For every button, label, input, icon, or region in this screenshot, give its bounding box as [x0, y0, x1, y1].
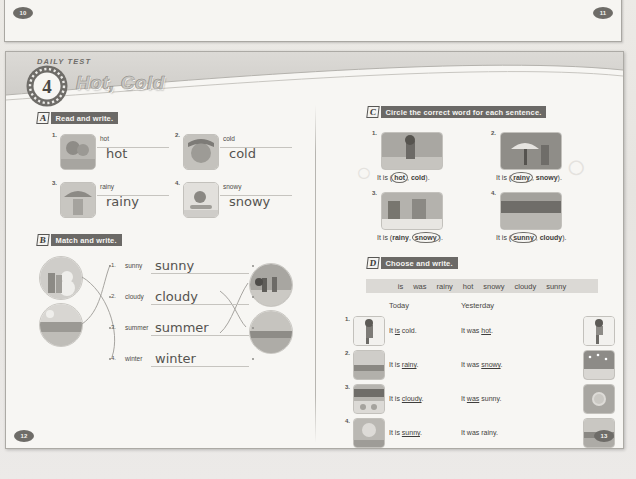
word-bank-item[interactable]: rainy: [437, 282, 453, 291]
yesterday-pre: It was: [461, 361, 481, 368]
item-number: 1.: [111, 262, 116, 268]
match-dot-right[interactable]: [252, 358, 254, 360]
page-number-bottom-right: 13: [594, 430, 614, 442]
item-number: 2.: [345, 350, 350, 356]
section-d-instruction: Choose and write.: [381, 257, 458, 269]
sentence-lead: It is (: [377, 234, 392, 241]
sentence-today-4[interactable]: It is sunny.: [389, 429, 422, 436]
thumbnail-cloudy-city: [353, 384, 385, 414]
word-bank-item[interactable]: cloudy: [515, 282, 537, 291]
sentence-tail: ).: [425, 174, 429, 181]
section-c-header: C Circle the correct word for each sente…: [367, 106, 546, 118]
today-answer[interactable]: cloudy: [402, 395, 422, 402]
page-number-top-right: 11: [593, 7, 613, 19]
section-b-item-1: 1. sunny sunny: [111, 256, 291, 282]
sentence-yesterday-1[interactable]: It was hot.: [461, 327, 493, 334]
section-c-item-2: 2. It is (rainy, snowy).: [491, 130, 624, 192]
sentence-3[interactable]: It is (rainy, snowy).: [377, 234, 443, 241]
today-answer[interactable]: sunny: [402, 429, 420, 436]
page-number-top-left: 10: [13, 7, 33, 19]
left-column: A Read and write. 1. hot hot 2. cold col…: [6, 101, 315, 448]
match-dot-right[interactable]: [252, 327, 254, 329]
match-dot-right[interactable]: [252, 296, 254, 298]
sentence-lead: It is (: [377, 174, 392, 181]
section-d-header: D Choose and write.: [367, 257, 458, 269]
answer-sunny[interactable]: sunny: [155, 258, 194, 273]
column-header-today: Today: [389, 301, 409, 310]
sentence-1[interactable]: It is (hot, cold).: [377, 174, 430, 181]
section-d-row-4: 4. It is sunny. It was rainy.: [345, 417, 615, 449]
sentence-today-1[interactable]: It is cold.: [389, 327, 417, 334]
section-b-item-2: 2. cloudy cloudy: [111, 287, 291, 313]
yesterday-post: .: [496, 429, 498, 436]
answer-winter[interactable]: winter: [155, 351, 196, 366]
sentence-yesterday-2[interactable]: It was snowy.: [461, 361, 503, 368]
page-number-bottom-left: 12: [14, 430, 34, 442]
yesterday-post: sunny.: [479, 395, 501, 402]
item-number: 3.: [111, 324, 116, 330]
section-d-row-2: 2. It is rainy. It was snowy.: [345, 349, 615, 381]
item-number: 1.: [372, 130, 377, 136]
option-other[interactable]: rainy: [392, 234, 409, 241]
sentence-tail: ).: [562, 234, 566, 241]
yesterday-post: .: [491, 327, 493, 334]
item-number: 2.: [491, 130, 496, 136]
option-circled[interactable]: hot: [392, 174, 407, 181]
yesterday-pre: It was: [461, 327, 481, 334]
today-answer[interactable]: rainy: [402, 361, 417, 368]
option-circled[interactable]: rainy: [511, 174, 532, 181]
sentence-tail: ).: [558, 174, 562, 181]
yesterday-answer[interactable]: snowy: [481, 361, 500, 368]
worksheet-page: DAILY TEST 4 Hot, Cold ○ ○ A Read and wr…: [5, 51, 624, 449]
thumbnail-rain-umbrella: [500, 132, 562, 170]
thumbnail-snowy-street: [381, 192, 443, 230]
answer-summer[interactable]: summer: [155, 320, 209, 335]
sentence-yesterday-4[interactable]: It was rainy.: [461, 429, 498, 436]
thumbnail-sunny-sky: [583, 384, 615, 414]
option-other[interactable]: cloudy: [540, 234, 563, 241]
today-post: cold.: [400, 327, 417, 334]
section-b-item-4: 4. winter winter: [111, 349, 291, 375]
section-b-item-3: 3. summer summer: [111, 318, 291, 344]
word-bank-item[interactable]: snowy: [483, 282, 504, 291]
yesterday-answer[interactable]: hot: [481, 327, 491, 334]
match-dot-right[interactable]: [252, 265, 254, 267]
item-number: 3.: [345, 384, 350, 390]
sentence-yesterday-3[interactable]: It was sunny.: [461, 395, 501, 402]
item-number: 4.: [111, 355, 116, 361]
thumbnail-hot-sun: [381, 132, 443, 170]
word-bank-item[interactable]: is: [398, 282, 403, 291]
word-bank: is was rainy hot snowy cloudy sunny: [366, 279, 598, 293]
item-number: 1.: [345, 316, 350, 322]
item-number: 4.: [491, 190, 496, 196]
thumbnail-sunny-sky-2: [353, 418, 385, 448]
sentence-lead: It is (: [496, 174, 511, 181]
option-other[interactable]: cold: [411, 174, 425, 181]
answer-rule: [151, 273, 249, 274]
column-header-yesterday: Yesterday: [461, 301, 494, 310]
item-number: 4.: [345, 418, 350, 424]
yesterday-pre: It was rainy: [461, 429, 496, 436]
page-title: Hot, Cold: [76, 72, 165, 94]
option-other[interactable]: snowy: [536, 174, 558, 181]
word-bank-item[interactable]: was: [413, 282, 426, 291]
word-bank-item[interactable]: hot: [463, 282, 473, 291]
today-pre: It is: [389, 395, 402, 402]
answer-rule: [151, 304, 249, 305]
option-circled[interactable]: snowy: [413, 234, 439, 241]
right-column: C Circle the correct word for each sente…: [315, 101, 623, 448]
word-bank-item[interactable]: sunny: [546, 282, 566, 291]
section-c-instruction: Circle the correct word for each sentenc…: [381, 106, 547, 118]
prompt-word: cloudy: [125, 293, 144, 300]
sentence-2[interactable]: It is (rainy, snowy).: [496, 174, 562, 181]
section-d-row-1: 1. It is cold. It was hot.: [345, 315, 615, 347]
yesterday-answer[interactable]: was: [467, 395, 479, 402]
today-pre: It is: [389, 429, 402, 436]
thumbnail-cold-boy: [353, 316, 385, 346]
sentence-today-2[interactable]: It is rainy.: [389, 361, 418, 368]
option-circled[interactable]: sunny: [511, 234, 536, 241]
sentence-4[interactable]: It is (sunny, cloudy).: [496, 234, 567, 241]
answer-cloudy[interactable]: cloudy: [155, 289, 198, 304]
sentence-today-3[interactable]: It is cloudy.: [389, 395, 424, 402]
thumbnail-rainy-land: [353, 350, 385, 380]
